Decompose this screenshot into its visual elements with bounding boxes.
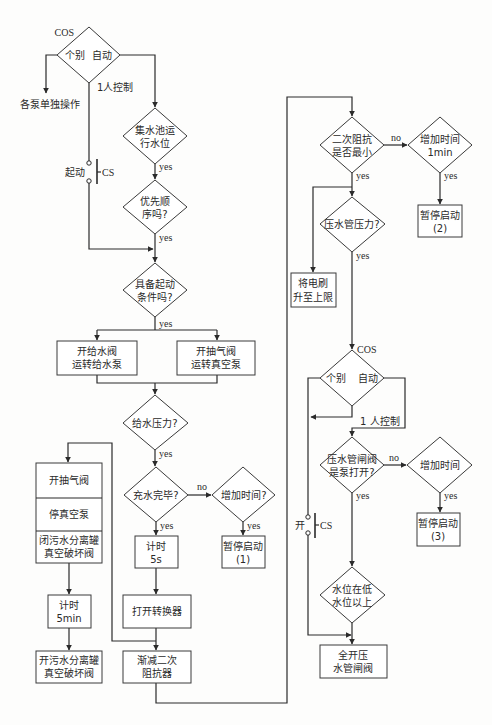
connector-boxes-join [97, 375, 217, 383]
yes-label: yes [356, 250, 369, 261]
decision-diamond [123, 263, 187, 317]
decision-text: 条件吗? [137, 291, 172, 303]
decision-text: 增加时间 [420, 459, 460, 471]
decision-text: 集水池运 [135, 124, 175, 136]
no-label: no [197, 481, 207, 492]
box-text: 真空破坏阀 [44, 667, 94, 679]
box-open-converter: 打开转换器 [123, 595, 191, 628]
yes-label: yes [247, 520, 260, 531]
box-timer-5min: 计时 5min [48, 595, 91, 628]
decision-text: 增加时间 [420, 133, 460, 145]
box-text: 计时 [59, 599, 79, 611]
cos-switch-right: COS 个别 自动 1 人控制 [320, 344, 400, 427]
switch-contact-icon [306, 531, 310, 535]
start-switch: 起动 CS [65, 159, 114, 184]
box-text: 暂停启动 [223, 540, 263, 552]
box-text: 开给水阀 [77, 345, 117, 357]
option-auto: 自动 [92, 49, 112, 61]
connector-cos1-auto [120, 55, 155, 107]
box-text: 计时 [146, 540, 166, 552]
connector-conditions-split [97, 317, 217, 330]
decision-gate-valve: 压水管闸阀 是泵打开? no yes [320, 437, 399, 501]
decision-diamond [320, 437, 384, 493]
box-text: 全开压 [338, 649, 368, 661]
box-timer-5s: 计时 5s [135, 536, 178, 568]
decision-diamond [320, 117, 384, 173]
yes-label: yes [160, 520, 173, 531]
box-text: 将电刷 [298, 277, 328, 289]
decision-feed-pressure: 给水压力? yes [123, 395, 188, 459]
box-text: 水管闸阀 [333, 662, 373, 674]
connector-cos2-individual [308, 378, 320, 515]
decision-text: 二次阻抗 [332, 133, 372, 145]
cos-tag: COS [357, 344, 376, 355]
box-text: (1) [236, 554, 250, 565]
decision-text: 具备起动 [135, 278, 175, 290]
decision-diamond [123, 108, 187, 164]
branch-one-person-label: 1人控制 [97, 81, 133, 93]
box-feed-valve: 开给水阀 运转给水泵 [57, 341, 137, 375]
box-text: 开抽气阀 [196, 345, 236, 357]
connector-cos1-individual [46, 55, 57, 93]
decision-add-time-2: 增加时间 1min yes [408, 117, 472, 181]
box-text: 升至上限 [293, 292, 333, 303]
decision-text: 压水管压力? [324, 218, 379, 230]
stack-vacuum-shutdown: 开抽气阀 停真空泵 闭污水分离罐 真空破坏阀 [36, 463, 102, 563]
decision-text: 是否最小 [332, 147, 372, 158]
decision-water-level: 水位在低 水位以上 [320, 567, 385, 623]
decision-text: 充水完毕? [133, 489, 178, 501]
decision-text: 是泵打开? [329, 466, 374, 478]
option-auto: 自动 [358, 372, 378, 384]
decision-text: 给水压力? [132, 417, 177, 429]
box-text: 运转真空泵 [191, 358, 241, 370]
box-text: 开污水分离罐 [39, 654, 99, 666]
box-pause-1: 暂停启动 (1) [222, 536, 265, 568]
switch-contact-icon [87, 161, 91, 165]
box-air-valve: 开抽气阀 运转真空泵 [177, 341, 255, 375]
box-text: 打开转换器 [132, 605, 182, 617]
open-switch: 开 CS [295, 513, 332, 538]
decision-text: 1min [427, 147, 452, 158]
pump-control-flowchart: COS 个别 自动 1人控制 各泵单独操作 起动 CS 集水池运 行水位 yes… [0, 0, 492, 725]
decision-text: 压水管闸阀 [327, 453, 377, 465]
decision-diamond [320, 567, 385, 623]
no-label: no [389, 452, 399, 463]
yes-label: yes [159, 318, 172, 329]
cos-switch-top: COS 个别 自动 1人控制 [55, 27, 134, 93]
stack-row-text: 闭污水分离罐 [39, 534, 99, 546]
decision-add-time-3: 增加时间 yes [407, 437, 472, 501]
yes-label: yes [159, 161, 172, 172]
box-reduce-impedance: 渐减二次 阻抗器 [123, 651, 191, 683]
decision-filling-done: 充水完毕? no yes [124, 467, 207, 531]
individual-operation-label: 各泵单独操作 [20, 98, 80, 110]
decision-discharge-pressure: 压水管压力? yes [320, 197, 385, 261]
option-individual: 个别 [326, 373, 346, 384]
connector-cos2-one-person [311, 406, 352, 417]
decision-text: 增加时间? [221, 489, 266, 501]
stack-row-text: 停真空泵 [49, 508, 89, 520]
box-full-open: 全开压 水管闸阀 [320, 645, 387, 678]
decision-impedance-min: 二次阻抗 是否最小 no yes [320, 117, 401, 181]
cs-tag: CS [320, 520, 332, 531]
decision-priority: 优先顺 序吗? yes [123, 180, 187, 243]
stack-row-text: 真空破坏阀 [44, 547, 94, 559]
stack-row-text: 开抽气阀 [49, 474, 89, 486]
box-text: (3) [431, 531, 445, 542]
box-text: 5min [56, 613, 81, 624]
box-pause-2: 暂停启动 (2) [418, 205, 462, 237]
box-text: 暂停启动 [418, 517, 458, 529]
box-text: 5s [150, 554, 162, 565]
box-text: 运转给水泵 [72, 358, 122, 370]
branch-one-person-label: 1 人控制 [360, 415, 400, 427]
decision-add-time-1: 增加时间? yes [212, 467, 275, 531]
box-open-breaker: 开污水分离罐 真空破坏阀 [36, 651, 102, 683]
decision-sump-level: 集水池运 行水位 yes [123, 108, 187, 172]
decision-diamond [408, 117, 472, 173]
box-text: 渐减二次 [137, 654, 177, 666]
decision-text: 优先顺 [140, 195, 170, 207]
box-text: 暂停启动 [420, 209, 460, 221]
yes-label: yes [159, 232, 172, 243]
decision-text: 水位在低 [332, 583, 372, 595]
yes-label: yes [159, 448, 172, 459]
start-switch-label: 起动 [65, 167, 85, 178]
